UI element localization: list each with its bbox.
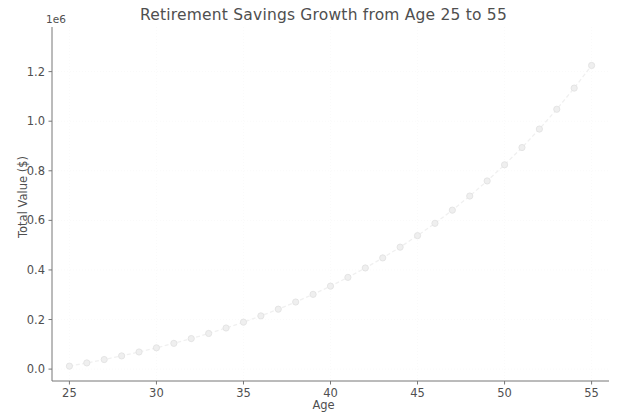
gridlines [52, 27, 609, 381]
svg-text:0.6: 0.6 [27, 213, 45, 227]
svg-text:45: 45 [410, 386, 425, 400]
svg-text:0.0: 0.0 [27, 362, 45, 376]
svg-text:0.2: 0.2 [27, 313, 45, 327]
chart-figure: Retirement Savings Growth from Age 25 to… [0, 0, 621, 419]
svg-text:1.2: 1.2 [27, 65, 45, 79]
axis-ticks [49, 72, 592, 385]
svg-text:50: 50 [497, 386, 512, 400]
plot-area: 0.00.20.40.60.81.01.225303540455055 [0, 0, 621, 419]
svg-text:40: 40 [323, 386, 338, 400]
svg-text:35: 35 [236, 386, 251, 400]
svg-text:55: 55 [584, 386, 599, 400]
svg-text:0.4: 0.4 [27, 263, 45, 277]
svg-text:0.8: 0.8 [27, 164, 45, 178]
axis-tick-labels: 0.00.20.40.60.81.01.225303540455055 [27, 65, 599, 400]
svg-text:25: 25 [62, 386, 77, 400]
svg-text:30: 30 [149, 386, 164, 400]
svg-text:1.0: 1.0 [27, 114, 45, 128]
